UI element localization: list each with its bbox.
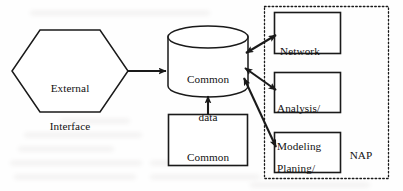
nap-group-label: NAP	[344, 149, 378, 162]
common-gui-label-line1: Common	[173, 151, 243, 164]
common-gui-label-line2: GUI	[173, 189, 243, 191]
common-data-label-line2: data	[173, 111, 243, 124]
edge-common-data-to-analysis	[245, 68, 276, 90]
network-label-line1: Network	[280, 45, 340, 58]
common-data-label-line1: Common	[173, 73, 243, 86]
external-interface-label-line2: Interface	[40, 120, 100, 133]
external-interface-label-line1: External	[40, 82, 100, 95]
analysis-modeling-label-line1: Analysis/	[277, 102, 341, 115]
external-interface-label: External Interface	[40, 57, 100, 158]
edge-common-data-to-network	[246, 35, 276, 53]
planing-upgrading-label: Planing/ Upgrading	[277, 137, 341, 191]
edge-common-data-to-planing	[244, 78, 276, 147]
diagram-canvas: External Interface Common data Common GU…	[0, 0, 403, 191]
planing-upgrading-label-line1: Planing/	[277, 162, 341, 175]
common-gui-label: Common GUI	[173, 126, 243, 191]
network-label: Network	[280, 20, 340, 83]
